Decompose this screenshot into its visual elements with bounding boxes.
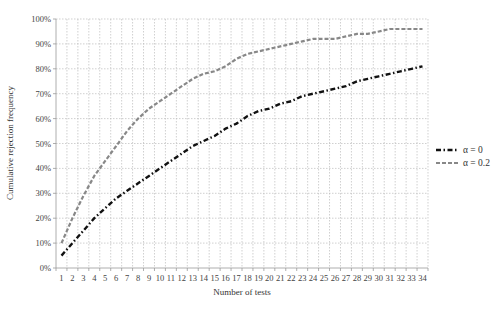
grid-lines xyxy=(56,19,428,268)
y-tick-label: 100% xyxy=(31,14,51,24)
x-axis-title: Number of tests xyxy=(213,287,271,297)
x-tick-label: 9 xyxy=(147,273,151,283)
x-tick-label: 4 xyxy=(92,273,97,283)
x-tick-label: 27 xyxy=(342,273,351,283)
line-chart: 0%10%20%30%40%50%60%70%80%90%100% 123456… xyxy=(0,0,498,312)
x-tick-label: 10 xyxy=(156,273,165,283)
x-tick-label: 32 xyxy=(396,273,405,283)
x-tick-label: 11 xyxy=(167,273,175,283)
legend-label: α = 0.2 xyxy=(463,158,490,168)
y-tick-label: 10% xyxy=(35,238,51,248)
x-tick-label: 19 xyxy=(254,273,263,283)
x-tick-label: 31 xyxy=(385,273,394,283)
x-tick-label: 24 xyxy=(309,273,318,283)
x-tick-label: 22 xyxy=(287,273,296,283)
x-tick-label: 5 xyxy=(103,273,107,283)
x-tick-label: 26 xyxy=(331,273,340,283)
y-axis-ticks: 0%10%20%30%40%50%60%70%80%90%100% xyxy=(31,14,56,273)
legend: α = 0α = 0.2 xyxy=(436,145,490,168)
x-tick-label: 6 xyxy=(114,273,118,283)
x-tick-label: 34 xyxy=(418,273,427,283)
y-axis-title: Cumulative rejection frequency xyxy=(5,86,15,200)
x-tick-label: 15 xyxy=(210,273,219,283)
y-tick-label: 80% xyxy=(35,64,51,74)
x-tick-label: 17 xyxy=(232,273,241,283)
x-tick-label: 13 xyxy=(189,273,198,283)
x-tick-label: 14 xyxy=(199,273,208,283)
y-tick-label: 70% xyxy=(35,89,51,99)
x-tick-label: 12 xyxy=(178,273,187,283)
x-tick-label: 21 xyxy=(276,273,285,283)
x-tick-label: 23 xyxy=(298,273,307,283)
x-tick-label: 30 xyxy=(375,273,384,283)
y-tick-label: 20% xyxy=(35,213,51,223)
x-tick-label: 16 xyxy=(221,273,230,283)
x-tick-label: 28 xyxy=(353,273,362,283)
x-tick-label: 18 xyxy=(243,273,252,283)
x-axis-ticks: 1234567891011121314151617181920212223242… xyxy=(56,268,428,283)
y-tick-label: 90% xyxy=(35,39,51,49)
x-tick-label: 3 xyxy=(81,273,85,283)
y-tick-label: 50% xyxy=(35,139,51,149)
x-tick-label: 8 xyxy=(136,273,140,283)
x-tick-label: 2 xyxy=(70,273,74,283)
x-tick-label: 29 xyxy=(364,273,373,283)
x-tick-label: 20 xyxy=(265,273,274,283)
x-tick-label: 1 xyxy=(59,273,63,283)
y-tick-label: 30% xyxy=(35,188,51,198)
x-tick-label: 7 xyxy=(125,273,129,283)
x-tick-label: 33 xyxy=(407,273,416,283)
y-tick-label: 0% xyxy=(40,263,51,273)
y-tick-label: 60% xyxy=(35,114,51,124)
x-tick-label: 25 xyxy=(320,273,329,283)
y-tick-label: 40% xyxy=(35,163,51,173)
legend-label: α = 0 xyxy=(463,145,483,155)
